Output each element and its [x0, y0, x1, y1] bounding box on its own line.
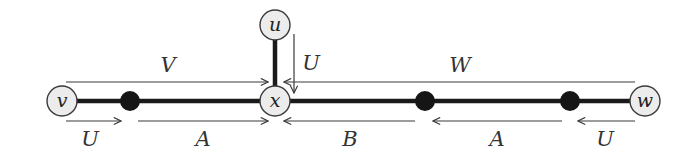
- label-W: W: [449, 53, 473, 77]
- label-U-top: U: [302, 51, 321, 75]
- label-U-left: U: [81, 127, 100, 151]
- path-diagram: v u x w V W U U A B A U: [0, 0, 693, 158]
- label-A-left: A: [193, 127, 210, 151]
- node-v: v: [47, 86, 77, 116]
- vertex-dot-2: [415, 91, 435, 111]
- label-B: B: [341, 127, 357, 151]
- node-v-label: v: [57, 89, 68, 111]
- vertex-dot-1: [120, 91, 140, 111]
- node-u: u: [260, 10, 290, 40]
- vertex-dot-3: [560, 91, 580, 111]
- label-V: V: [160, 53, 177, 77]
- node-u-label: u: [269, 13, 281, 35]
- node-w: w: [630, 86, 660, 116]
- label-U-right: U: [596, 127, 615, 151]
- arrows: [66, 34, 635, 121]
- label-A-right: A: [487, 127, 504, 151]
- node-x: x: [260, 86, 290, 116]
- edges: [62, 25, 645, 101]
- node-x-label: x: [270, 89, 281, 111]
- node-w-label: w: [637, 89, 653, 111]
